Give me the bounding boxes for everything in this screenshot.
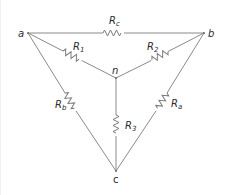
resistor-r3 xyxy=(113,78,119,171)
resistor-r1 xyxy=(28,33,116,78)
node-c-dot xyxy=(115,170,117,172)
node-n-dot xyxy=(115,77,117,79)
label-ra: Ra xyxy=(171,98,182,111)
circuit-diagram: a b n c Rc R1 R2 R3 Rb Ra xyxy=(0,0,227,195)
resistor-ra xyxy=(116,33,204,171)
node-label-c: c xyxy=(113,174,119,185)
node-b-dot xyxy=(203,32,205,34)
node-label-n: n xyxy=(112,65,118,76)
label-r3: R3 xyxy=(125,120,136,133)
resistor-r2 xyxy=(116,33,204,78)
label-rb: Rb xyxy=(55,99,67,112)
node-label-a: a xyxy=(18,28,24,39)
resistor-rb xyxy=(28,33,116,171)
resistor-rc xyxy=(28,30,204,36)
node-a-dot xyxy=(27,32,29,34)
label-r2: R2 xyxy=(147,41,159,54)
label-rc: Rc xyxy=(109,15,120,28)
node-label-b: b xyxy=(208,28,214,39)
label-r1: R1 xyxy=(73,41,84,54)
